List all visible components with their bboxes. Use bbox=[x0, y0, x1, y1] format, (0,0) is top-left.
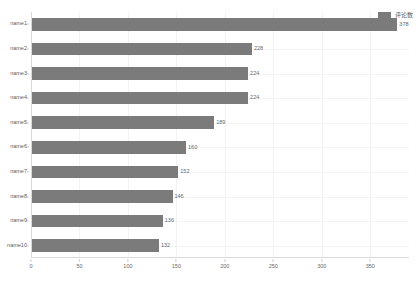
x-axis-tick: 0 bbox=[29, 259, 32, 270]
y-axis-labels: name1name2name3name4name5name6name7name8… bbox=[0, 12, 29, 258]
x-axis-labels: 050100150200250300350 bbox=[31, 259, 409, 277]
bar-row[interactable]: 146 bbox=[31, 190, 409, 203]
x-axis-tick-mark bbox=[224, 259, 225, 262]
y-axis-tick-mark bbox=[27, 73, 29, 74]
bar-row[interactable]: 136 bbox=[31, 215, 409, 228]
y-axis-tick-label: name10 bbox=[7, 243, 27, 249]
y-axis-tick-mark bbox=[27, 24, 29, 25]
bar[interactable] bbox=[31, 190, 173, 203]
x-axis-tick-mark bbox=[79, 259, 80, 262]
x-axis-tick: 150 bbox=[172, 259, 181, 270]
x-axis-tick-label: 200 bbox=[220, 264, 229, 270]
x-axis-tick-mark bbox=[127, 259, 128, 262]
y-axis-tick-label: name5 bbox=[10, 120, 27, 126]
y-axis-tick-label: name8 bbox=[10, 194, 27, 200]
bar-row[interactable]: 224 bbox=[31, 67, 409, 80]
x-axis-tick-label: 350 bbox=[366, 264, 375, 270]
bar[interactable] bbox=[31, 43, 252, 56]
bar[interactable] bbox=[31, 239, 159, 252]
y-axis-tick-label: name2 bbox=[10, 46, 27, 52]
bar-row[interactable]: 228 bbox=[31, 43, 409, 56]
x-axis-tick-label: 100 bbox=[123, 264, 132, 270]
bar-chart: 评论数 378228224224189160152146136132 name1… bbox=[0, 0, 419, 291]
y-axis-tick-label: name7 bbox=[10, 169, 27, 175]
y-axis-tick-label: name4 bbox=[10, 95, 27, 101]
bar-value-label: 160 bbox=[188, 145, 197, 151]
bar[interactable] bbox=[31, 67, 248, 80]
x-axis-tick: 50 bbox=[76, 259, 82, 270]
bar-series: 378228224224189160152146136132 bbox=[31, 12, 409, 258]
y-axis-tick-mark bbox=[27, 48, 29, 49]
bar[interactable] bbox=[31, 92, 248, 105]
bar-value-label: 152 bbox=[180, 169, 189, 175]
x-axis-tick-label: 300 bbox=[317, 264, 326, 270]
bar-value-label: 132 bbox=[161, 243, 170, 249]
bar-row[interactable]: 189 bbox=[31, 116, 409, 129]
x-axis-tick-mark bbox=[273, 259, 274, 262]
bar-value-label: 189 bbox=[216, 120, 225, 126]
x-axis-tick-mark bbox=[176, 259, 177, 262]
x-axis-tick-label: 250 bbox=[269, 264, 278, 270]
bar[interactable] bbox=[31, 116, 214, 129]
x-axis-tick: 300 bbox=[317, 259, 326, 270]
bar[interactable] bbox=[31, 141, 186, 154]
y-axis-tick-mark bbox=[27, 171, 29, 172]
x-axis-tick: 350 bbox=[366, 259, 375, 270]
x-axis-tick-mark bbox=[370, 259, 371, 262]
y-axis-tick-mark bbox=[27, 245, 29, 246]
bar-value-label: 146 bbox=[175, 194, 184, 200]
bar-row[interactable]: 132 bbox=[31, 239, 409, 252]
y-axis-tick-mark bbox=[27, 196, 29, 197]
bar-row[interactable]: 152 bbox=[31, 166, 409, 179]
x-axis-tick: 200 bbox=[220, 259, 229, 270]
bar[interactable] bbox=[31, 166, 178, 179]
x-axis-tick-mark bbox=[31, 259, 32, 262]
bar-value-label: 224 bbox=[250, 95, 259, 101]
bar[interactable] bbox=[31, 18, 397, 31]
bar-value-label: 136 bbox=[165, 218, 174, 224]
y-axis-tick-mark bbox=[27, 221, 29, 222]
y-axis-tick-label: name9 bbox=[10, 218, 27, 224]
x-axis-tick-mark bbox=[321, 259, 322, 262]
x-axis-tick-label: 150 bbox=[172, 264, 181, 270]
x-axis-tick: 100 bbox=[123, 259, 132, 270]
y-axis-line bbox=[31, 12, 32, 258]
y-axis-tick-label: name3 bbox=[10, 71, 27, 77]
plot-area: 378228224224189160152146136132 bbox=[31, 12, 409, 258]
x-axis-tick-label: 50 bbox=[76, 264, 82, 270]
x-axis-tick-label: 0 bbox=[29, 264, 32, 270]
y-axis-tick-mark bbox=[27, 122, 29, 123]
bar-row[interactable]: 378 bbox=[31, 18, 409, 31]
bar-value-label: 228 bbox=[254, 46, 263, 52]
bar-value-label: 378 bbox=[399, 22, 408, 28]
bar-row[interactable]: 224 bbox=[31, 92, 409, 105]
bar[interactable] bbox=[31, 215, 163, 228]
y-axis-tick-label: name1 bbox=[10, 22, 27, 28]
y-axis-tick-label: name6 bbox=[10, 145, 27, 151]
bar-row[interactable]: 160 bbox=[31, 141, 409, 154]
x-axis-line bbox=[31, 257, 409, 258]
y-axis-tick-mark bbox=[27, 98, 29, 99]
x-axis-tick: 250 bbox=[269, 259, 278, 270]
y-axis-tick-mark bbox=[27, 147, 29, 148]
bar-value-label: 224 bbox=[250, 71, 259, 77]
